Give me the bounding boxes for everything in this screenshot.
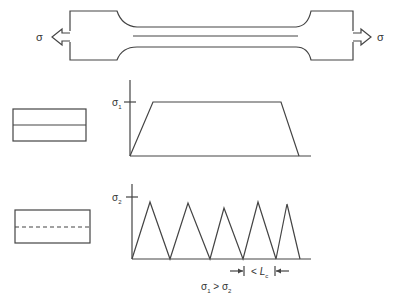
- sigma1-tick-label: σ1: [112, 97, 122, 110]
- left-sigma-label: σ: [36, 31, 43, 43]
- diagram-canvas: σ σ σ1 σ2 < Lc σ1 > σ2: [0, 0, 394, 302]
- arrowhead-left-icon: [276, 269, 281, 274]
- fragmented-fiber-box: [15, 210, 90, 243]
- tensile-specimen: [70, 11, 353, 60]
- stress-profile: [130, 102, 299, 156]
- sigma-comparison-label: σ1 > σ2: [201, 281, 232, 294]
- sigma2-tick-label: σ2: [112, 192, 122, 205]
- arrowhead-right-icon: [238, 269, 243, 274]
- right-arrow-icon: [353, 29, 371, 45]
- continuous-fiber-chart: σ1: [112, 80, 311, 156]
- right-sigma-label: σ: [377, 31, 384, 43]
- continuous-fiber-box: [13, 109, 86, 141]
- fragmented-fiber-chart: σ2 < Lc σ1 > σ2: [112, 184, 311, 294]
- stress-profile: [132, 202, 300, 259]
- critical-length-label: < Lc: [251, 266, 268, 279]
- left-arrow-icon: [52, 29, 70, 45]
